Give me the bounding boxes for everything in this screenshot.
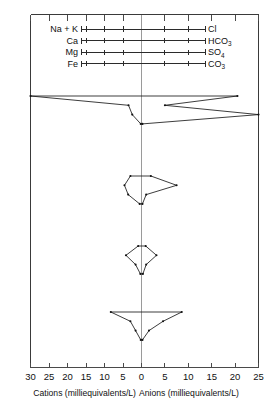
stiff-vertex-s2-0 xyxy=(150,175,152,177)
stiff-vertex-s3-2 xyxy=(145,264,147,266)
tick-label-cation-10: 10 xyxy=(99,371,110,382)
tick-label-cation-25: 25 xyxy=(44,371,55,382)
tick-label-cation-0: 0 xyxy=(139,371,144,382)
stiff-polygon-sample-1 xyxy=(31,96,259,124)
stiff-vertex-s3-3 xyxy=(142,273,144,275)
legend-cation-label-1: Ca xyxy=(66,36,78,46)
legend-anion-label-0: Cl xyxy=(208,24,217,34)
tick-label-cation-20: 20 xyxy=(62,371,73,382)
stiff-vertex-s3-5 xyxy=(135,264,137,266)
stiff-vertex-s4-2 xyxy=(148,330,150,332)
stiff-vertex-s3-0 xyxy=(145,245,147,247)
stiff-polygons-group xyxy=(29,95,259,341)
tick-label-anion-20: 20 xyxy=(230,371,241,382)
cations-axis-caption: Cations (milliequivalents/L) xyxy=(33,388,136,398)
stiff-vertex-s3-4 xyxy=(139,273,141,275)
stiff-vertex-s4-6 xyxy=(129,320,131,322)
legend-cation-label-3: Fe xyxy=(67,59,78,69)
stiff-diagram-plot: Na + KClCaHCO3MgSO4FeCO3 302520151050510… xyxy=(0,0,272,408)
stiff-vertex-s2-4 xyxy=(139,203,141,205)
tick-label-anion-15: 15 xyxy=(206,371,217,382)
stiff-vertex-s2-2 xyxy=(145,194,147,196)
stiff-diagram-figure: Na + KClCaHCO3MgSO4FeCO3 302520151050510… xyxy=(0,0,272,408)
stiff-vertex-s1-4 xyxy=(140,123,142,125)
legend-anion-label-3: CO3 xyxy=(208,59,226,70)
stiff-polygon-sample-2 xyxy=(124,176,176,204)
bottom-axis-ticks xyxy=(31,363,259,368)
stiff-vertex-s2-1 xyxy=(176,184,178,186)
stiff-vertex-s4-5 xyxy=(135,330,137,332)
stiff-vertex-s3-1 xyxy=(155,254,157,256)
stiff-vertex-s1-7 xyxy=(29,95,31,97)
legend-anion-label-2: SO4 xyxy=(208,47,225,58)
stiff-vertex-s2-6 xyxy=(123,184,125,186)
stiff-vertex-s4-7 xyxy=(110,311,112,313)
stiff-vertex-s1-0 xyxy=(236,95,238,97)
stiff-vertex-s4-4 xyxy=(140,339,142,341)
tick-label-anion-10: 10 xyxy=(183,371,194,382)
anions-axis-caption: Anions (milliequivalents/L) xyxy=(139,388,239,398)
stiff-polygon-sample-4 xyxy=(111,312,182,340)
stiff-vertex-s1-2 xyxy=(257,114,259,116)
stiff-vertex-s3-7 xyxy=(137,245,139,247)
tick-label-anion-5: 5 xyxy=(162,371,167,382)
tick-label-anion-25: 25 xyxy=(253,371,264,382)
legend-cation-label-0: Na + K xyxy=(50,24,78,34)
bottom-axis: 302520151050510152025 xyxy=(25,363,264,383)
legend-cation-label-2: Mg xyxy=(65,47,78,57)
top-axis-ticks xyxy=(31,15,259,21)
stiff-vertex-s2-5 xyxy=(127,194,129,196)
tick-label-cation-30: 30 xyxy=(25,371,36,382)
stiff-vertex-s4-1 xyxy=(162,320,164,322)
stiff-vertex-s1-1 xyxy=(164,104,166,106)
stiff-vertex-s4-0 xyxy=(181,311,183,313)
stiff-vertex-s1-6 xyxy=(128,104,130,106)
stiff-vertex-s2-3 xyxy=(141,203,143,205)
stiff-vertex-s2-7 xyxy=(129,175,131,177)
stiff-vertex-s1-5 xyxy=(131,114,133,116)
bottom-axis-tick-labels: 302520151050510152025 xyxy=(25,371,264,382)
tick-label-cation-15: 15 xyxy=(81,371,92,382)
tick-label-cation-5: 5 xyxy=(120,371,125,382)
stiff-vertex-s3-6 xyxy=(125,254,127,256)
legend-anion-label-1: HCO3 xyxy=(208,36,232,47)
